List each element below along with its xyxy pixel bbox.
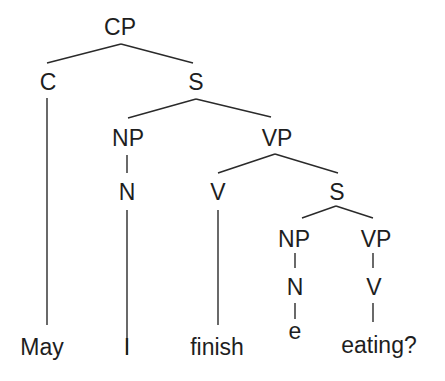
- node-s-embedded: S: [329, 179, 344, 205]
- node-vp-embedded: VP: [361, 226, 392, 252]
- edge-cp-c: [47, 44, 121, 63]
- node-vp-main: VP: [262, 125, 293, 151]
- syntax-tree-diagram: CP C S NP VP N V S NP VP N V May I finis…: [0, 0, 445, 381]
- leaf-i: I: [124, 334, 130, 360]
- node-n-embedded: N: [287, 274, 304, 300]
- edge-cp-s: [121, 44, 193, 63]
- node-cp: CP: [104, 14, 136, 40]
- leaf-may: May: [20, 334, 64, 360]
- node-n-main: N: [119, 179, 136, 205]
- tree-nodes: CP C S NP VP N V S NP VP N V: [40, 14, 392, 300]
- node-s-main: S: [188, 69, 203, 95]
- node-np-embedded: NP: [278, 226, 310, 252]
- node-v-main: V: [210, 179, 226, 205]
- edge-vp-s: [275, 154, 338, 173]
- node-v-embedded: V: [366, 274, 382, 300]
- leaf-empty-subject: e: [289, 318, 302, 344]
- leaf-finish: finish: [190, 334, 244, 360]
- node-np-main: NP: [112, 125, 144, 151]
- edge-s2-vp2: [336, 206, 373, 218]
- edge-s-vp: [196, 99, 271, 117]
- edge-s2-np2: [302, 206, 336, 218]
- edge-vp-v: [218, 154, 275, 173]
- node-c: C: [40, 69, 57, 95]
- edge-s-np: [128, 99, 196, 118]
- leaf-eating: eating?: [341, 332, 416, 358]
